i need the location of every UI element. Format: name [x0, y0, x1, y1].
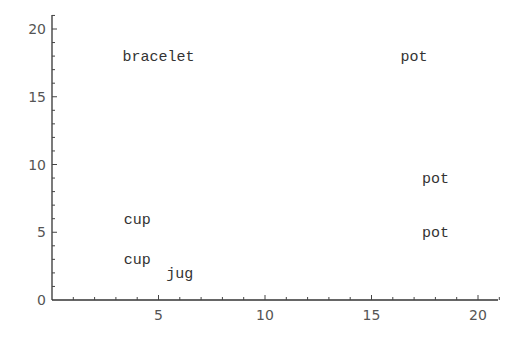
data-point-labels: braceletpotpotpotcupcupjug: [122, 49, 448, 283]
x-tick-label: 10: [256, 307, 274, 323]
y-tick-label: 15: [28, 89, 46, 105]
y-tick-labels: 05101520: [28, 21, 46, 308]
x-tick-label: 5: [154, 307, 163, 323]
y-tick-label: 0: [37, 292, 46, 308]
point-label-jug: jug: [166, 266, 193, 283]
point-label-pot: pot: [401, 49, 428, 66]
x-tick-labels: 5101520: [154, 307, 487, 323]
x-tick-label: 20: [469, 307, 487, 323]
point-label-cup: cup: [124, 252, 151, 269]
point-label-pot: pot: [422, 171, 449, 188]
x-tick-label: 15: [363, 307, 381, 323]
point-label-bracelet: bracelet: [122, 49, 194, 66]
point-label-cup: cup: [124, 212, 151, 229]
y-tick-label: 10: [28, 157, 46, 173]
y-tick-label: 20: [28, 21, 46, 37]
point-label-pot: pot: [422, 225, 449, 242]
tick-marks: [52, 15, 499, 300]
axes: [52, 15, 498, 300]
scatter-chart: 5101520 05101520 braceletpotpotpotcupcup…: [0, 0, 526, 342]
y-tick-label: 5: [37, 224, 46, 240]
